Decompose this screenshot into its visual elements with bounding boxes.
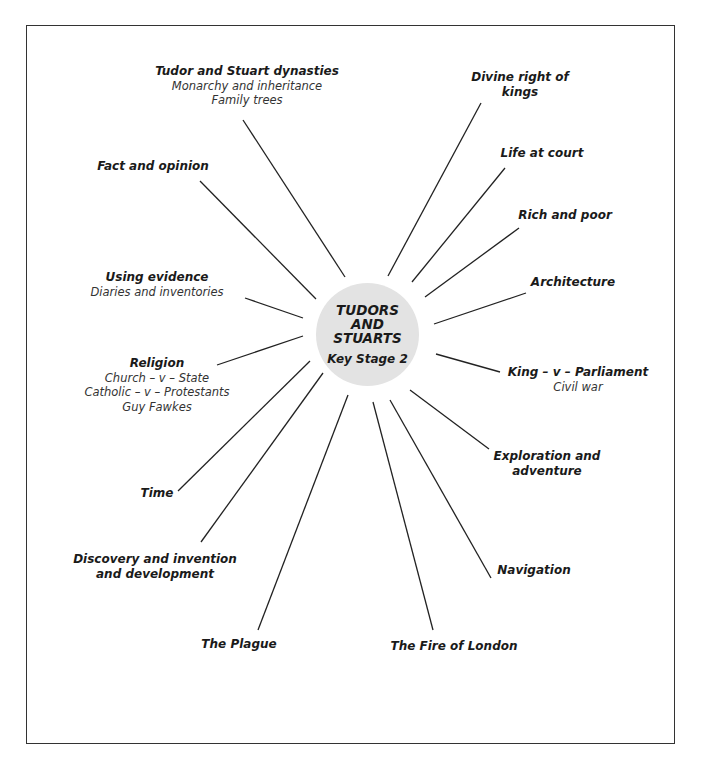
connector-religion <box>217 336 303 365</box>
topic-fire-london: The Fire of London <box>390 639 517 654</box>
hub-subtitle: Key Stage 2 <box>316 352 419 366</box>
topic-fact-opinion: Fact and opinion <box>97 159 209 174</box>
topic-life-court: Life at court <box>501 146 584 161</box>
connector-architecture <box>434 293 526 324</box>
connector-dynasties <box>243 120 345 277</box>
topic-time: Time <box>141 486 174 501</box>
connector-exploration <box>410 390 489 449</box>
connector-rich-poor <box>425 228 519 297</box>
connector-fire-london <box>373 402 433 630</box>
topic-discovery: Discovery and invention and development <box>68 552 243 581</box>
central-hub: TUDORS AND STUARTS Key Stage 2 <box>316 283 419 386</box>
topic-exploration: Exploration and adventure <box>487 449 607 478</box>
connector-life-court <box>412 168 505 282</box>
topic-using-evidence: Using evidence Diaries and inventories <box>90 270 223 299</box>
topic-plague: The Plague <box>201 637 276 652</box>
connector-plague <box>258 395 348 630</box>
connector-divine-right <box>388 103 481 276</box>
topic-dynasties: Tudor and Stuart dynasties Monarchy and … <box>155 64 339 108</box>
connector-king-parliament <box>436 354 500 372</box>
topic-rich-poor: Rich and poor <box>518 208 612 223</box>
topic-king-parliament: King – v – Parliament Civil war <box>508 365 648 394</box>
connector-using-evidence <box>245 298 303 318</box>
hub-title: TUDORS AND STUARTS <box>316 303 419 345</box>
connector-navigation <box>390 400 491 578</box>
topic-religion: Religion Church – v – State Catholic – v… <box>84 356 229 414</box>
topic-navigation: Navigation <box>497 563 570 578</box>
topic-architecture: Architecture <box>531 275 615 290</box>
topic-divine-right: Divine right of kings <box>460 70 580 99</box>
